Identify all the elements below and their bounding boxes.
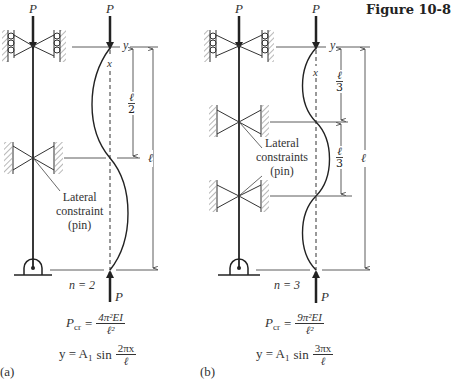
panel-b-column	[235, 16, 243, 268]
panel-b-constraint-note: Lateral constraints (pin)	[256, 136, 308, 178]
panel-b-x-axis-label: x	[313, 66, 318, 78]
panel-a-graphics	[2, 16, 158, 302]
panel-a-load-top-left: P	[29, 1, 37, 17]
panel-a-critical-load-equation: Pcr = 4π²EIℓ²	[66, 311, 125, 336]
panel-a-load-bottom: P	[115, 289, 123, 305]
panel-b-load-bottom: P	[321, 289, 329, 305]
panel-b-mode-shape-equation: y = A1 sin 3πxℓ	[256, 342, 333, 367]
panel-b-mode-number: n = 3	[274, 278, 300, 293]
panel-a-segment-dimension: ℓ 2	[128, 92, 135, 115]
panel-a-mode-number: n = 2	[69, 278, 95, 293]
panel-a-x-axis-label: x	[107, 57, 112, 69]
panel-a-buckled-shape	[50, 16, 158, 302]
panel-a-y-axis-label: y	[123, 38, 128, 53]
panel-b-y-axis-label: y	[330, 38, 335, 53]
panel-b-critical-load-equation: Pcr = 9π²EIℓ²	[265, 311, 324, 336]
panel-a-load-top-right: P	[106, 1, 114, 17]
panel-a-total-dimension: ℓ	[148, 150, 153, 167]
panel-b-load-top-left: P	[235, 1, 243, 17]
panel-b-middle-segment-dimension: ℓ 3	[336, 146, 343, 169]
panel-a-column	[29, 16, 37, 268]
panel-b-load-top-right: P	[312, 1, 320, 17]
figure-title: Figure 10-8	[366, 2, 451, 17]
panel-b-upper-segment-dimension: ℓ 3	[336, 70, 343, 93]
panel-a-mode-shape-equation: y = A1 sin 2πxℓ	[59, 342, 136, 367]
panel-a-label: (a)	[0, 364, 14, 380]
panel-b-total-dimension: ℓ	[361, 150, 366, 167]
panel-b-label: (b)	[200, 364, 215, 380]
panel-a-constraint-note: Lateral constraint (pin)	[56, 190, 103, 232]
